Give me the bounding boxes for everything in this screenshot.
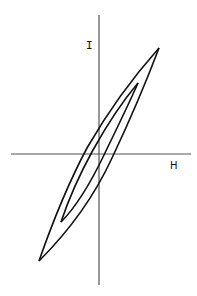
y-axis-label: I: [86, 39, 93, 52]
x-axis-label: H: [170, 160, 178, 171]
hysteresis-diagram: I H: [0, 0, 197, 296]
